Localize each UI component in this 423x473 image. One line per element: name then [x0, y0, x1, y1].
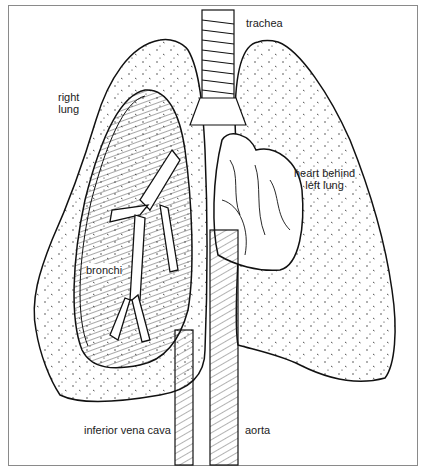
- label-bronchi: bronchi: [86, 264, 122, 276]
- label-right-lung: right lung: [58, 91, 79, 115]
- inferior-vena-cava: [175, 330, 193, 465]
- label-heart: heart behind left lung: [294, 167, 355, 191]
- label-trachea: trachea: [246, 17, 283, 29]
- label-aorta: aorta: [245, 424, 270, 436]
- aorta: [210, 230, 238, 465]
- trachea: [190, 10, 246, 125]
- lungs-diagram: [0, 0, 423, 473]
- label-inferior-vena-cava: inferior vena cava: [84, 424, 171, 436]
